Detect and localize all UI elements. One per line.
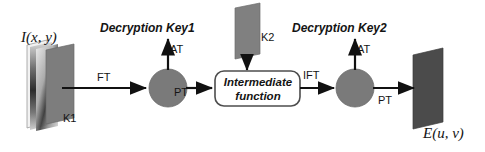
decryption-key-1-label: Decryption Key1	[100, 22, 195, 34]
intermediate-function-line1: Intermediate	[222, 77, 294, 89]
edge-label-ft: FT	[97, 72, 110, 83]
edge-label-at-2: AT	[357, 44, 370, 55]
edge-label-ift: IFT	[303, 70, 320, 81]
edge-label-pt-1: PT	[174, 87, 188, 98]
diagram-canvas: I(x, y) K1 K2 E(u, v)	[0, 0, 485, 152]
edge-label-at-1: AT	[170, 44, 183, 55]
multiplier-node-2	[336, 69, 374, 107]
intermediate-function-line2: function	[222, 91, 294, 103]
edge-label-pt-2: PT	[378, 95, 392, 106]
decryption-key-2-label: Decryption Key2	[292, 22, 387, 34]
